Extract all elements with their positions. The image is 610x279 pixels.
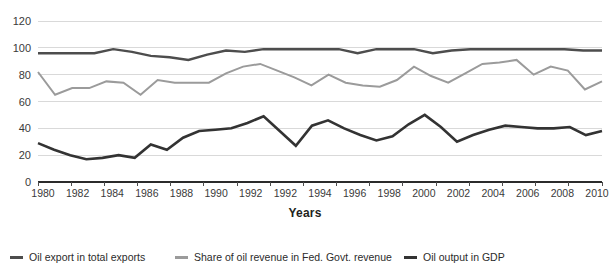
- x-tick-label: 1996: [343, 187, 367, 199]
- x-tick-label: 2000: [412, 187, 436, 199]
- series-lines: [38, 49, 602, 159]
- legend-item-oil-export: Oil export in total exports: [10, 249, 145, 265]
- plot-area: 020406080100120 198019821984198619881990…: [0, 0, 610, 200]
- y-tick-labels: 020406080100120: [13, 15, 31, 188]
- legend-swatch-oil-output-gdp: [404, 256, 417, 259]
- x-tick-label: 1992: [274, 187, 298, 199]
- legend-label-oil-export: Oil export in total exports: [29, 251, 145, 264]
- legend-label-oil-output-gdp: Oil output in GDP: [423, 251, 505, 264]
- x-tick-label: 1988: [170, 187, 194, 199]
- x-tick-label: 1980: [31, 187, 55, 199]
- x-axis-title: Years: [0, 206, 610, 220]
- legend-item-oil-revenue-share: Share of oil revenue in Fed. Govt. reven…: [175, 249, 392, 265]
- y-tick-label: 0: [25, 176, 31, 188]
- x-tick-label: 1984: [101, 187, 125, 199]
- x-tick-label: 1994: [308, 187, 332, 199]
- plot-svg: 020406080100120 198019821984198619881990…: [0, 0, 610, 200]
- legend-label-oil-revenue-share: Share of oil revenue in Fed. Govt. reven…: [194, 251, 392, 264]
- y-tick-label: 60: [19, 96, 31, 108]
- line-chart: 020406080100120 198019821984198619881990…: [0, 0, 610, 279]
- x-tick-label: 1986: [135, 187, 159, 199]
- x-tick-label: 1992: [239, 187, 263, 199]
- x-tick-label: 1990: [204, 187, 228, 199]
- legend-item-oil-output-gdp: Oil output in GDP: [404, 249, 505, 265]
- x-tick-label: 2008: [551, 187, 575, 199]
- legend-swatch-oil-export: [10, 256, 23, 259]
- legend-swatch-oil-revenue-share: [175, 256, 188, 259]
- x-tick-label: 2010: [585, 187, 609, 199]
- x-tick-label: 2004: [481, 187, 505, 199]
- series-line: [38, 60, 602, 95]
- x-tick-label: 1998: [378, 187, 402, 199]
- x-tick-labels: 1980198219841986198819901992199219941996…: [31, 187, 609, 199]
- y-tick-label: 120: [13, 15, 31, 27]
- series-line: [38, 49, 602, 60]
- x-tick-label: 2002: [447, 187, 471, 199]
- y-tick-label: 100: [13, 42, 31, 54]
- y-tick-label: 40: [19, 122, 31, 134]
- series-line: [38, 115, 602, 159]
- y-tick-label: 20: [19, 149, 31, 161]
- x-tick-label: 1982: [66, 187, 90, 199]
- gridlines: [38, 21, 602, 155]
- chart-legend: Oil export in total exports Share of oil…: [0, 249, 610, 271]
- x-tick-label: 2006: [516, 187, 540, 199]
- y-tick-label: 80: [19, 69, 31, 81]
